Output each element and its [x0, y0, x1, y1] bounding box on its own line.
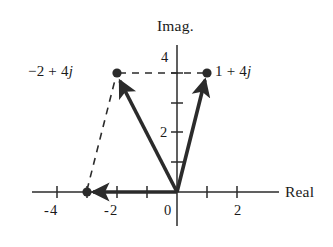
- dashed-parallelogram-side-line: [87, 76, 116, 190]
- imag-tick-label-4: 4: [161, 50, 168, 65]
- point-label-minus2-plus-4j-text: −2 + 4: [28, 63, 69, 79]
- real-tick-label-2: 2: [234, 203, 241, 218]
- real-tick-label-0: 0: [164, 203, 171, 218]
- imag-tick-label-2: 2: [160, 125, 167, 140]
- point-label-1-plus-4j: 1 + 4j: [215, 64, 251, 79]
- complex-plane-figure: Imag. Real 4 2 -4 -2 0 2 −2 + 4j 1 + 4j: [0, 0, 333, 247]
- vector-minus2-plus-4j: [120, 81, 177, 192]
- point-marker-1-plus-4j: [202, 68, 211, 77]
- point-marker-minus2-plus-4j: [112, 68, 121, 77]
- real-axis-label: Real: [285, 184, 314, 200]
- vector-1-plus-4j: [177, 80, 205, 192]
- imag-unit-icon-left: j: [69, 63, 73, 79]
- point-marker-minus3: [82, 187, 91, 196]
- imag-axis-label: Imag.: [157, 18, 194, 34]
- point-label-1-plus-4j-text: 1 + 4: [215, 63, 247, 79]
- point-label-minus2-plus-4j: −2 + 4j: [28, 64, 73, 79]
- real-tick-label--2: -2: [104, 203, 118, 218]
- imag-unit-icon-right: j: [247, 63, 251, 79]
- real-tick-label--4: -4: [44, 203, 58, 218]
